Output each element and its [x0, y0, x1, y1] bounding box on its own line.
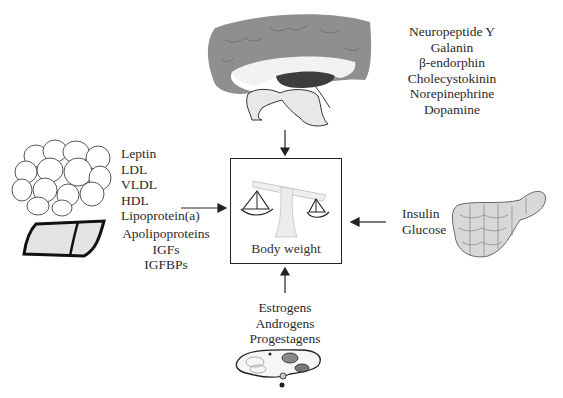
brain-factor: Cholecystokinin — [386, 71, 518, 87]
brain-factor: Dopamine — [386, 102, 518, 118]
adipose-factor: Lipoprotein(a) — [121, 208, 200, 224]
adipose-factor: LDL — [121, 162, 200, 178]
brain-factor: β-endorphin — [386, 55, 518, 71]
pancreas-factor: Insulin — [402, 206, 446, 222]
liver-factor: IGFBPs — [112, 257, 220, 273]
pancreas-factor-list: Insulin Glucose — [402, 206, 446, 237]
arrow-head — [351, 218, 359, 226]
liver-icon — [24, 221, 104, 256]
gonad-factor: Progestagens — [235, 331, 335, 347]
ovary-icon — [236, 350, 320, 388]
pancreas-icon — [452, 191, 545, 256]
liver-factor-list: Apolipoproteins IGFs IGFBPs — [112, 226, 220, 273]
adipose-factor-list: Leptin LDL VLDL HDL Lipoprotein(a) — [121, 146, 200, 224]
arrow-head — [218, 204, 226, 212]
adipose-factor: HDL — [121, 193, 200, 209]
liver-factor: Apolipoproteins — [112, 226, 220, 242]
arrow-head — [281, 268, 289, 275]
gonad-factor: Estrogens — [235, 300, 335, 316]
adipose-factor: Leptin — [121, 146, 200, 162]
body-weight-box: Body weight — [230, 158, 342, 264]
gonad-factor-list: Estrogens Androgens Progestagens — [235, 300, 335, 347]
brain-factor: Neuropeptide Y — [386, 24, 518, 40]
gonad-factor: Androgens — [235, 316, 335, 332]
brain-factor: Norepinephrine — [386, 86, 518, 102]
pancreas-factor: Glucose — [402, 222, 446, 238]
arrow-head — [281, 148, 289, 155]
liver-factor: IGFs — [112, 242, 220, 258]
adipose-tissue-icon — [12, 140, 111, 216]
balance-scale-icon — [231, 165, 341, 245]
adipose-factor: VLDL — [121, 177, 200, 193]
body-weight-label: Body weight — [231, 241, 341, 257]
brain-factor-list: Neuropeptide Y Galanin β-endorphin Chole… — [386, 24, 518, 117]
brain-icon — [208, 14, 371, 126]
brain-factor: Galanin — [386, 40, 518, 56]
